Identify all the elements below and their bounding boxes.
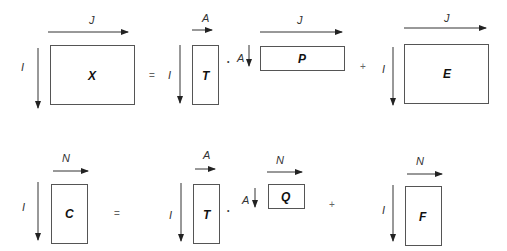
matrix-t-group: A I T bbox=[169, 149, 220, 244]
i-label: I bbox=[21, 61, 24, 73]
matrix-x-group: J I X bbox=[21, 14, 135, 108]
n-label: N bbox=[276, 154, 284, 166]
equals-sign: = bbox=[149, 70, 155, 81]
j-label: J bbox=[443, 12, 450, 24]
j-label: J bbox=[296, 14, 303, 26]
matrix-e-label: E bbox=[443, 67, 452, 81]
a-label: A bbox=[201, 12, 209, 24]
i-label: I bbox=[168, 69, 171, 81]
matrix-t-group: A I T bbox=[168, 12, 219, 105]
a-label: A bbox=[241, 194, 249, 206]
i-label: I bbox=[382, 63, 385, 75]
dot-operator: • bbox=[227, 207, 230, 214]
matrix-p-group: A J P bbox=[236, 14, 345, 71]
equals-sign: = bbox=[114, 208, 120, 219]
i-label: I bbox=[169, 209, 172, 221]
dot-operator: • bbox=[227, 58, 230, 65]
matrix-p-label: P bbox=[298, 52, 307, 66]
equation-x: J I X = A I T • A J P + bbox=[21, 12, 489, 108]
a-label: A bbox=[202, 149, 210, 161]
j-label: J bbox=[88, 14, 95, 26]
matrix-q-group: A N Q bbox=[241, 154, 305, 209]
matrix-c-group: N I C bbox=[22, 152, 88, 244]
matrix-c-label: C bbox=[65, 207, 74, 221]
n-label: N bbox=[62, 152, 70, 164]
n-label: N bbox=[416, 155, 424, 167]
matrix-f-group: N I F bbox=[382, 155, 442, 246]
a-label: A bbox=[236, 52, 244, 64]
plus-sign: + bbox=[360, 61, 366, 72]
i-label: I bbox=[22, 201, 25, 213]
matrix-e-group: J I E bbox=[382, 12, 489, 105]
matrix-f-label: F bbox=[419, 210, 427, 224]
equation-c: N I C = A I T • A N Q + bbox=[22, 149, 442, 246]
matrix-q-label: Q bbox=[281, 190, 291, 204]
matrix-x-label: X bbox=[87, 69, 97, 83]
diagram-canvas: J I X = A I T • A J P + bbox=[0, 0, 507, 251]
plus-sign: + bbox=[329, 199, 335, 210]
i-label: I bbox=[382, 204, 385, 216]
